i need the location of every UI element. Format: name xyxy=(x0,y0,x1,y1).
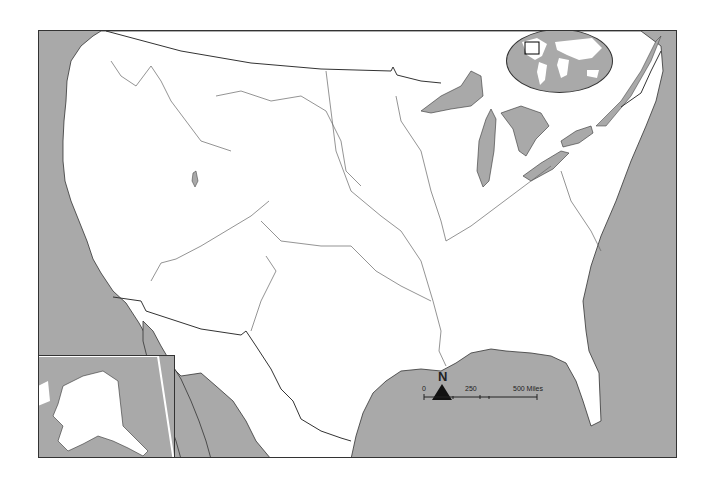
world-inset xyxy=(506,30,613,93)
alaska-inset-map xyxy=(38,356,174,458)
north-label: N xyxy=(438,369,447,384)
scale-label-250: 250 xyxy=(465,385,477,392)
scale-label-0: 0 xyxy=(422,385,426,392)
scale-bar xyxy=(423,393,538,401)
scale-label-500: 500 Miles xyxy=(513,385,543,392)
map-frame xyxy=(38,30,677,458)
alaska-inset xyxy=(38,355,175,458)
world-inset-map xyxy=(507,30,612,92)
